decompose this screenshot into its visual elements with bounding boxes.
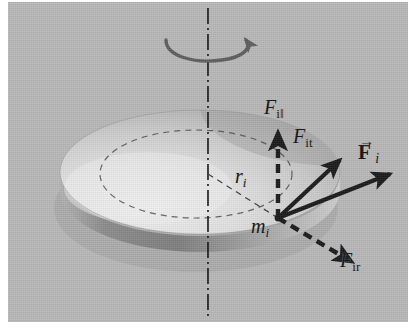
mass-point (275, 215, 282, 222)
disk-face-highlight (64, 152, 232, 224)
label-force-total: →F i (358, 142, 379, 166)
label-force-tangential: Fit (293, 126, 313, 149)
label-radius-base: r (235, 165, 243, 187)
physics-diagram-canvas (8, 2, 408, 322)
label-force-radial-base: F (340, 249, 352, 271)
vector-arrow-accent-icon: → (359, 134, 373, 149)
label-mass-element-base: m (251, 215, 265, 237)
label-force-parallel-base: F (264, 96, 276, 118)
label-force-radial-sub: ir (352, 259, 360, 274)
label-mass-element-sub: i (265, 225, 269, 240)
label-radius-sub: i (243, 175, 247, 190)
label-radius: ri (235, 166, 247, 189)
label-force-radial: Fir (340, 250, 361, 273)
label-force-parallel-sub: i‖ (276, 106, 284, 121)
figure-panel: Fi‖ Fit →F i ri mi Fir (8, 2, 408, 322)
label-force-tangential-sub: it (305, 135, 313, 150)
label-mass-element: mi (251, 216, 269, 239)
rotation-arrow-icon (166, 40, 248, 61)
label-force-total-sub: i (375, 151, 379, 166)
label-force-total-base: →F (358, 140, 375, 164)
label-force-parallel: Fi‖ (264, 97, 284, 120)
label-force-tangential-base: F (293, 125, 305, 147)
figure-root: Fi‖ Fit →F i ri mi Fir (0, 0, 414, 335)
